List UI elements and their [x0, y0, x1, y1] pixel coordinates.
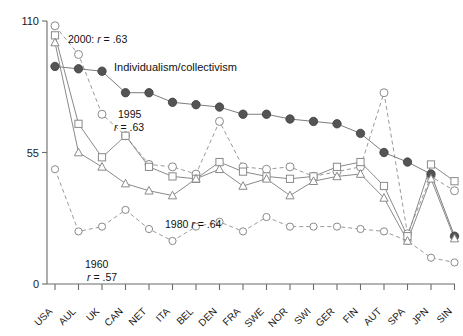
data-point	[380, 89, 388, 97]
data-point	[286, 175, 293, 182]
x-label-aut: AUT	[361, 306, 383, 328]
annotation-1995-year: 1995	[118, 108, 142, 120]
data-point	[74, 65, 82, 73]
data-point	[357, 158, 364, 165]
x-label-uk: UK	[84, 305, 102, 323]
x-label-net: NET	[126, 306, 148, 328]
series-markers-0	[51, 62, 459, 240]
data-point	[145, 89, 153, 97]
data-point	[333, 223, 340, 230]
x-label-ger: GER	[313, 306, 336, 329]
data-point	[262, 110, 270, 118]
data-point	[427, 254, 434, 261]
data-point	[169, 173, 176, 180]
data-point	[98, 67, 106, 75]
data-point	[356, 129, 364, 137]
data-point	[192, 100, 200, 108]
x-label-aul: AUL	[56, 305, 78, 327]
data-point	[333, 120, 341, 128]
data-point	[121, 89, 129, 97]
data-point	[239, 110, 247, 118]
data-point	[51, 166, 58, 173]
data-point	[263, 165, 271, 173]
y-tick-label-0: 0	[33, 278, 39, 290]
data-point	[215, 103, 223, 111]
data-point	[122, 206, 129, 213]
data-point	[427, 161, 434, 168]
data-point	[263, 213, 270, 220]
data-point	[216, 117, 224, 125]
annotation-1995-r-value: = .63	[118, 121, 145, 133]
x-label-nor: NOR	[266, 306, 290, 330]
data-point	[286, 223, 293, 230]
annotation-1980: 1980 r = .64	[165, 218, 222, 230]
annotation-2000: 2000: r = .63	[68, 33, 127, 45]
x-label-bel: BEL	[174, 305, 195, 326]
data-point	[286, 115, 294, 123]
x-label-fra: FRA	[220, 305, 242, 327]
data-point	[403, 158, 411, 166]
data-point	[286, 163, 294, 171]
data-point	[98, 163, 106, 171]
annotation-1960-r: r = .57	[87, 271, 117, 283]
annotation-1960-r-value: = .57	[91, 271, 118, 283]
data-point	[51, 62, 59, 70]
y-tick-label-55: 55	[27, 147, 39, 159]
data-point	[239, 228, 246, 235]
data-point	[75, 120, 82, 127]
data-point	[98, 223, 105, 230]
data-point	[122, 132, 129, 139]
data-point	[309, 117, 317, 125]
data-point	[286, 191, 294, 199]
data-point	[356, 170, 364, 178]
annotation-individualism: Individualism/collectivism	[114, 61, 237, 73]
data-point	[239, 168, 246, 175]
data-point	[121, 179, 129, 187]
annotation-1980-suffix: = .64	[195, 218, 222, 230]
annotation-1980-prefix: 1980	[165, 218, 191, 230]
data-point	[169, 237, 176, 244]
data-point	[333, 163, 340, 170]
annotation-1960-year: 1960	[85, 258, 109, 270]
y-tick-label-110: 110	[21, 15, 39, 27]
data-point	[168, 98, 176, 106]
annotation-2000-prefix: 2000:	[68, 33, 97, 45]
data-point	[451, 187, 459, 195]
x-label-ita: ITA	[154, 305, 172, 323]
data-point	[98, 110, 106, 118]
data-point	[74, 148, 82, 156]
x-label-can: CAN	[102, 306, 125, 329]
x-label-fin: FIN	[341, 306, 360, 325]
data-point	[145, 163, 152, 170]
annotation-2000-suffix: = .63	[101, 33, 128, 45]
data-point	[310, 223, 317, 230]
series-layer	[51, 22, 459, 266]
data-point	[169, 163, 177, 171]
data-point	[380, 182, 387, 189]
series-markers-1	[51, 22, 459, 238]
series-line-0	[55, 66, 455, 236]
series-markers-4	[51, 166, 458, 266]
series-markers-3	[51, 38, 459, 244]
data-point	[451, 178, 458, 185]
series-line-4	[55, 169, 455, 262]
data-point	[75, 50, 83, 58]
x-label-swi: SWI	[292, 306, 313, 327]
data-point	[51, 22, 59, 30]
x-label-usa: USA	[32, 305, 55, 328]
data-point	[98, 154, 105, 161]
x-label-swe: SWE	[242, 305, 266, 329]
data-point	[145, 225, 152, 232]
data-point	[451, 259, 458, 266]
x-label-spa: SPA	[386, 305, 408, 327]
x-tick-labels-group: USA AUL UK CAN NET ITA BEL DEN FRA SWE N…	[32, 305, 454, 329]
x-ticks-group	[55, 284, 455, 290]
chart-container: 110 55 0	[0, 0, 463, 336]
annotation-1995-r: r = .63	[114, 121, 144, 133]
data-point	[380, 228, 387, 235]
data-point	[75, 228, 82, 235]
x-label-jpn: JPN	[409, 306, 430, 327]
data-point	[380, 148, 388, 156]
x-label-den: DEN	[196, 306, 219, 329]
series-markers-2	[51, 32, 458, 240]
